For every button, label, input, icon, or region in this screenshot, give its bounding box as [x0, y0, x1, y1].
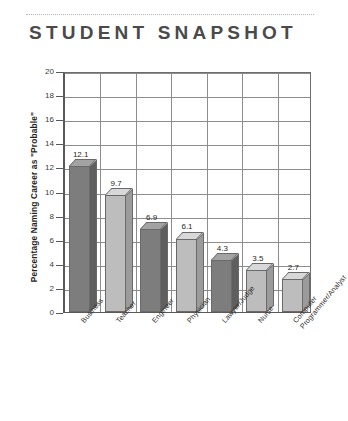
x-axis-category-label: Computer Programmer/Analyst: [291, 267, 348, 330]
x-axis-category-label: Physician: [185, 295, 212, 325]
x-axis-category-label: Lawyer/Judge: [220, 284, 256, 325]
x-axis-category-label: Business: [79, 296, 105, 325]
x-axis-category-label: Engineer: [150, 296, 176, 324]
x-axis-category-label: Nurse: [256, 304, 276, 325]
x-axis-category-label: Teacher: [114, 299, 138, 325]
